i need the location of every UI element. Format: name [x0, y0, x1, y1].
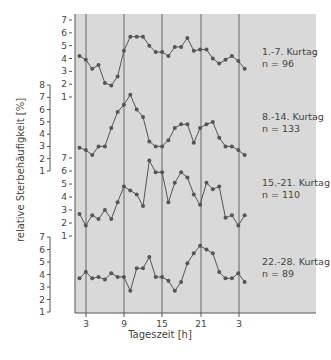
y-tick-label: 1	[39, 307, 45, 317]
y-axis-4: 1234567	[39, 232, 50, 317]
data-point	[160, 170, 164, 174]
data-point	[116, 275, 120, 279]
data-point	[185, 261, 189, 265]
data-point	[192, 141, 196, 145]
data-point	[147, 255, 151, 259]
series-n-label: n = 133	[262, 123, 300, 134]
mortality-chart: 1.-7. Kurtagn = 968.-14. Kurtagn = 13315…	[0, 0, 331, 360]
y-tick-label: 1	[61, 92, 67, 102]
y-tick-label: 6	[39, 105, 45, 115]
data-point	[198, 126, 202, 130]
y-tick-label: 2	[61, 79, 67, 89]
data-point	[154, 144, 158, 148]
data-point	[97, 144, 101, 148]
data-point	[116, 200, 120, 204]
y-tick-label: 3	[61, 66, 67, 76]
series-n-label: n = 96	[262, 58, 294, 69]
data-point	[141, 204, 145, 208]
data-point	[78, 212, 82, 216]
data-point	[217, 62, 221, 66]
data-point	[154, 50, 158, 54]
data-point	[97, 275, 101, 279]
y-tick-label: 1	[61, 231, 67, 241]
data-point	[78, 54, 82, 58]
data-point	[243, 153, 247, 157]
y-tick-label: 6	[39, 245, 45, 255]
data-point	[122, 103, 126, 107]
y-tick-label: 2	[39, 295, 45, 305]
data-point	[179, 45, 183, 49]
data-point	[109, 126, 113, 130]
data-point	[122, 275, 126, 279]
y-tick-label: 5	[39, 117, 45, 127]
data-point	[90, 276, 94, 280]
data-point	[135, 35, 139, 39]
series-n-label: n = 110	[262, 189, 300, 200]
y-tick-label: 2	[61, 218, 67, 228]
data-point	[230, 54, 234, 58]
data-point	[243, 67, 247, 71]
y-axis-2: 12345678	[39, 80, 50, 176]
data-point	[78, 276, 82, 280]
data-point	[147, 44, 151, 48]
data-point	[109, 84, 113, 88]
data-point	[224, 144, 228, 148]
data-point	[185, 176, 189, 180]
data-point	[128, 93, 132, 97]
data-point	[205, 48, 209, 52]
y-tick-label: 2	[39, 154, 45, 164]
data-point	[211, 187, 215, 191]
data-point	[122, 185, 126, 189]
y-axis-title: relative Sterbehäufigkeit [%]	[15, 98, 26, 242]
data-point	[211, 57, 215, 61]
y-tick-label: 6	[61, 28, 67, 38]
data-point	[84, 224, 88, 228]
data-point	[243, 280, 247, 284]
y-tick-label: 1	[39, 166, 45, 176]
data-point	[160, 144, 164, 148]
data-point	[109, 271, 113, 275]
y-tick-label: 8	[39, 80, 45, 90]
data-point	[173, 181, 177, 185]
y-tick-label: 4	[61, 54, 67, 64]
data-point	[236, 271, 240, 275]
data-point	[173, 289, 177, 293]
data-point	[205, 248, 209, 252]
data-point	[116, 75, 120, 79]
y-axis-3: 1234567	[61, 153, 72, 241]
data-point	[230, 144, 234, 148]
data-point	[90, 67, 94, 71]
data-point	[109, 217, 113, 221]
data-point	[236, 148, 240, 152]
data-point	[84, 58, 88, 62]
data-point	[243, 213, 247, 217]
data-point	[128, 35, 132, 39]
data-point	[135, 108, 139, 112]
x-axis-title: Tageszeit [h]	[127, 329, 192, 340]
data-point	[128, 289, 132, 293]
data-point	[230, 213, 234, 217]
data-point	[179, 170, 183, 174]
x-tick-label: 15	[156, 319, 167, 329]
data-point	[160, 275, 164, 279]
data-point	[205, 181, 209, 185]
data-point	[192, 192, 196, 196]
y-tick-label: 7	[39, 92, 45, 102]
data-point	[205, 122, 209, 126]
y-axis-1: 1234567	[61, 15, 72, 102]
data-point	[84, 270, 88, 274]
data-point	[224, 58, 228, 62]
series-n-label: n = 89	[262, 268, 294, 279]
data-point	[192, 49, 196, 53]
data-point	[160, 50, 164, 54]
data-point	[141, 35, 145, 39]
y-tick-label: 6	[61, 166, 67, 176]
data-point	[236, 224, 240, 228]
data-point	[103, 208, 107, 212]
data-point	[230, 276, 234, 280]
data-point	[103, 278, 107, 282]
y-tick-label: 7	[39, 232, 45, 242]
data-point	[147, 140, 151, 144]
data-point	[78, 146, 82, 150]
y-tick-label: 3	[39, 282, 45, 292]
